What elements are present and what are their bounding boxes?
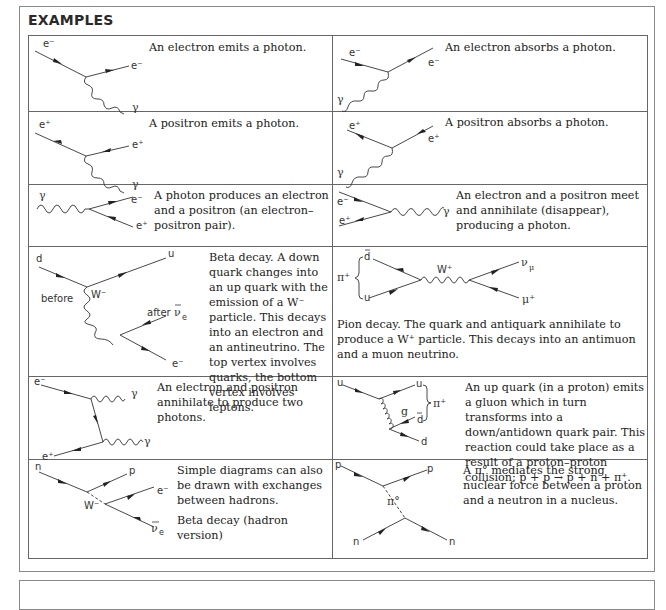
svg-text:e⁺: e⁺ <box>39 119 50 130</box>
svg-text:before: before <box>41 293 73 304</box>
svg-text:e⁻: e⁻ <box>131 60 142 71</box>
example-annihilation-two-photons: e⁻ γ γ e⁺ An electron and positron annih… <box>29 377 333 460</box>
svg-text:W⁺: W⁺ <box>437 264 452 275</box>
example-description: A positron emits a photon. <box>149 116 329 131</box>
svg-text:γ: γ <box>337 166 344 179</box>
svg-text:μ: μ <box>529 263 534 272</box>
svg-text:g: g <box>401 405 408 418</box>
svg-text:π⁺: π⁺ <box>337 271 350 284</box>
example-description: Pion decay. The quark and antiquark anni… <box>337 317 637 362</box>
svg-text:d: d <box>417 414 423 425</box>
svg-text:e⁻: e⁻ <box>131 194 142 205</box>
svg-text:p: p <box>335 459 341 470</box>
svg-text:e⁻: e⁻ <box>337 196 348 207</box>
example-description: An electron absorbs a photon. <box>445 40 641 55</box>
svg-text:π⁺: π⁺ <box>433 397 446 410</box>
svg-text:γ: γ <box>337 93 344 106</box>
example-electron-absorbs-photon: e⁻ e⁻ γ An electron absorbs a photon. <box>333 36 647 112</box>
svg-text:p: p <box>427 463 433 474</box>
example-positron-emits-photon: e⁺ e⁺ γ A positron emits a photon. <box>29 112 333 185</box>
svg-text:d: d <box>364 251 370 262</box>
svg-text:e⁺: e⁺ <box>349 120 360 131</box>
svg-text:e⁺: e⁺ <box>339 215 350 226</box>
example-beta-decay: d u before W⁻ after ν e e⁻ Beta decay. A… <box>29 247 333 377</box>
svg-text:u: u <box>337 377 343 388</box>
example-description: An electron and a positron meet and anni… <box>456 188 644 233</box>
svg-text:ν: ν <box>174 306 181 319</box>
svg-text:e⁻: e⁻ <box>43 38 54 49</box>
svg-text:π°: π° <box>387 495 400 508</box>
example-description: A π° mediates the strong nuclear force b… <box>463 463 643 508</box>
svg-text:p: p <box>129 465 135 476</box>
svg-text:u: u <box>168 248 174 259</box>
svg-text:γ: γ <box>443 205 450 218</box>
examples-table: e⁻ e⁻ γ An electron emits a photon. e⁻ e… <box>28 35 648 559</box>
svg-text:e⁺: e⁺ <box>132 139 143 150</box>
svg-text:ν: ν <box>151 522 158 535</box>
svg-text:e⁻: e⁻ <box>34 376 45 387</box>
svg-text:e⁺: e⁺ <box>428 133 439 144</box>
svg-text:γ: γ <box>131 387 138 400</box>
svg-text:d: d <box>421 436 427 447</box>
svg-text:W⁻: W⁻ <box>84 500 99 511</box>
example-pion-decay: π⁺ d u W⁺ ν μ μ⁺ Pion decay. The quark a… <box>333 247 647 377</box>
example-description: A positron absorbs a photon. <box>445 115 641 130</box>
svg-text:e⁻: e⁻ <box>172 358 183 369</box>
svg-text:W⁻: W⁻ <box>91 289 106 300</box>
example-positron-absorbs-photon: e⁺ e⁺ γ A positron absorbs a photon. <box>333 112 647 185</box>
example-description: Simple diagrams can also be drawn with e… <box>177 463 333 508</box>
svg-text:e: e <box>182 313 187 322</box>
example-hadron-beta-decay: n p W⁻ e⁻ ν e Simple diagrams can also b… <box>29 460 333 558</box>
svg-text:e: e <box>159 528 164 537</box>
svg-text:γ: γ <box>144 435 151 448</box>
example-description: An electron and positron annihilate to p… <box>157 380 333 425</box>
svg-text:μ⁺: μ⁺ <box>522 293 535 306</box>
svg-text:e⁻: e⁻ <box>157 485 168 496</box>
next-panel <box>19 580 655 610</box>
example-electron-emits-photon: e⁻ e⁻ γ An electron emits a photon. <box>29 36 333 112</box>
svg-text:ν: ν <box>521 256 528 269</box>
example-pair-production: γ e⁻ e⁺ A photon produces an electron an… <box>29 185 333 247</box>
example-pion-exchange: p p π° n n A π° mediates the strong nucl… <box>333 460 647 558</box>
example-description: An electron emits a photon. <box>149 40 329 55</box>
svg-text:d: d <box>36 253 42 264</box>
example-caption: Beta decay (hadron version) <box>177 513 333 543</box>
svg-text:n: n <box>35 461 41 472</box>
svg-text:u: u <box>364 292 370 303</box>
svg-text:e⁺: e⁺ <box>136 220 147 231</box>
example-gluon-pion: u u g d d π⁺ An up quark (in a proton) e… <box>333 377 647 460</box>
svg-text:u: u <box>416 378 422 389</box>
svg-text:after: after <box>147 307 172 318</box>
examples-panel: EXAMPLES e⁻ e⁻ γ An electron emits a pho… <box>19 6 655 572</box>
svg-text:γ: γ <box>39 189 46 202</box>
svg-text:n: n <box>449 536 455 547</box>
section-title: EXAMPLES <box>28 12 114 28</box>
example-annihilation-one-photon: e⁻ e⁺ γ An electron and a positron meet … <box>333 185 647 247</box>
svg-text:e⁻: e⁻ <box>428 57 439 68</box>
svg-text:n: n <box>353 536 359 547</box>
svg-text:e⁻: e⁻ <box>349 47 360 58</box>
example-description: A photon produces an electron and a posi… <box>154 188 332 233</box>
